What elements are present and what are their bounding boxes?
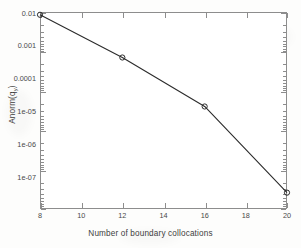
y-axis-tick-minor (283, 189, 286, 190)
y-axis-tick-minor (41, 41, 44, 42)
y-axis-tick-minor (283, 119, 286, 120)
y-axis-tick-minor (41, 116, 44, 117)
x-tick-label: 16 (193, 211, 217, 220)
x-axis-tick (206, 203, 207, 208)
y-tick-label: 0.001 (0, 41, 36, 50)
y-axis-tick-minor (41, 150, 44, 151)
y-tick-label: 0.01 (0, 9, 36, 18)
x-axis-tick (41, 13, 42, 18)
x-axis-tick (206, 13, 207, 18)
x-axis-tick (287, 203, 288, 208)
x-tick-label: 10 (69, 211, 93, 220)
x-axis-tick (247, 203, 248, 208)
y-axis-tick-major (281, 131, 286, 132)
y-axis-tick-minor (283, 44, 286, 45)
x-tick-label: 20 (275, 211, 299, 220)
y-axis-tick-minor (41, 71, 44, 72)
y-axis-tick-minor (41, 80, 44, 81)
x-axis-tick (287, 13, 288, 18)
y-axis-tick-minor (41, 51, 44, 52)
y-axis-tick-major (41, 52, 46, 53)
y-axis-tick-minor (283, 116, 286, 117)
y-axis-tick-minor (283, 198, 286, 199)
y-axis-tick-minor (283, 194, 286, 195)
y-axis-tick-minor (41, 83, 44, 84)
y-axis-tick-minor (41, 122, 44, 123)
y-axis-tick-minor (283, 129, 286, 130)
y-axis-tick-minor (283, 167, 286, 168)
y-axis-tick-minor (283, 122, 286, 123)
y-axis-tick-minor (283, 80, 286, 81)
x-axis-tick (247, 13, 248, 18)
y-axis-tick-minor (41, 64, 44, 65)
y-axis-tick-major (41, 131, 46, 132)
x-tick-label: 12 (110, 211, 134, 220)
y-axis-tick-minor (41, 189, 44, 190)
y-axis-title: Anorm(qy) (8, 55, 17, 155)
y-axis-tick-minor (283, 208, 286, 209)
y-axis-tick-minor (283, 64, 286, 65)
y-axis-tick-minor (283, 125, 286, 126)
y-axis-tick-minor (283, 76, 286, 77)
y-axis-tick-minor (283, 150, 286, 151)
y-axis-tick-minor (283, 37, 286, 38)
y-axis-tick-minor (41, 167, 44, 168)
x-axis-tick (165, 13, 166, 18)
y-axis-tick-minor (41, 90, 44, 91)
y-axis-tick-minor (283, 155, 286, 156)
y-axis-tick-minor (41, 25, 44, 26)
x-axis-tick (123, 203, 124, 208)
y-axis-tick-minor (283, 159, 286, 160)
y-axis-tick-minor (41, 88, 44, 89)
y-axis-tick-minor (283, 206, 286, 207)
y-axis-tick-minor (41, 44, 44, 45)
y-axis-tick-minor (283, 104, 286, 105)
y-axis-tick-minor (41, 32, 44, 33)
y-axis-tick-minor (283, 46, 286, 47)
y-axis-tick-minor (283, 86, 286, 87)
x-axis-title: Number of boundary collocations (0, 229, 301, 238)
y-axis-tick-minor (41, 143, 44, 144)
y-tick-label: 1e-05 (0, 107, 36, 116)
y-axis-tick-minor (283, 169, 286, 170)
y-axis-title-main: Anorm(q (8, 91, 17, 123)
y-tick-label: 1e-06 (0, 140, 36, 149)
y-axis-tick-minor (283, 111, 286, 112)
y-axis-tick-minor (41, 194, 44, 195)
y-axis-tick-minor (41, 208, 44, 209)
y-tick-label: 0.0001 (0, 74, 36, 83)
y-axis-tick-minor (41, 127, 44, 128)
y-axis-tick-minor (283, 127, 286, 128)
y-axis-tick-minor (283, 204, 286, 205)
y-axis-tick-minor (41, 198, 44, 199)
y-axis-tick-minor (283, 88, 286, 89)
y-axis-tick-minor (283, 51, 286, 52)
y-axis-tick-major (41, 171, 46, 172)
x-axis-tick (82, 203, 83, 208)
x-tick-label: 8 (28, 211, 52, 220)
plot-area (40, 12, 287, 209)
y-axis-tick-minor (283, 183, 286, 184)
y-axis-tick-minor (41, 37, 44, 38)
y-axis-tick-minor (41, 86, 44, 87)
y-axis-tick-minor (41, 129, 44, 130)
y-axis-tick-minor (41, 165, 44, 166)
y-axis-tick-major (281, 52, 286, 53)
x-axis-tick (123, 13, 124, 18)
y-axis-tick-minor (41, 49, 44, 50)
y-axis-tick-minor (283, 83, 286, 84)
y-axis-tick-minor (41, 159, 44, 160)
y-axis-tick-minor (41, 119, 44, 120)
figure-semilog-convergence-plot: 0.01 0.001 0.0001 1e-05 1e-06 1e-07 8 10… (0, 0, 301, 248)
y-axis-tick-minor (41, 125, 44, 126)
y-axis-tick-minor (41, 183, 44, 184)
y-axis-tick-minor (41, 155, 44, 156)
y-axis-tick-minor (41, 76, 44, 77)
y-axis-tick-minor (283, 201, 286, 202)
y-axis-tick-minor (41, 162, 44, 163)
y-axis-tick-major (281, 171, 286, 172)
y-axis-tick-minor (283, 143, 286, 144)
y-axis-tick-minor (41, 169, 44, 170)
y-axis-tick-minor (41, 46, 44, 47)
y-axis-tick-minor (283, 32, 286, 33)
